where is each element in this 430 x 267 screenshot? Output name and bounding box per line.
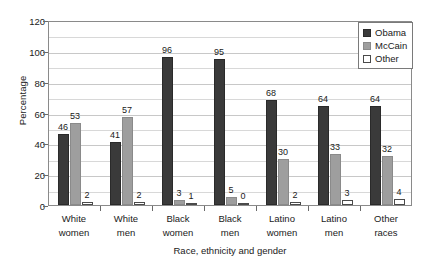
legend-item-other: Other: [363, 52, 407, 65]
x-axis-category-line: women: [59, 226, 90, 240]
bar-value-label: 57: [122, 105, 132, 115]
x-axis-category-line: Other: [374, 212, 398, 226]
x-axis-category-label: Latinowomen: [267, 212, 298, 239]
x-axis-category-line: White: [59, 212, 90, 226]
x-axis-tick-mark: [360, 206, 361, 211]
bar-value-label: 3: [344, 188, 349, 198]
legend-swatch-icon: [363, 42, 371, 50]
x-axis-category-label: Whitemen: [114, 212, 138, 239]
bar-obama: [318, 106, 329, 205]
x-axis-category-label: Whitewomen: [59, 212, 90, 239]
bar-obama: [266, 100, 277, 205]
x-axis-category-line: Latino: [267, 212, 298, 226]
y-axis-tick-label: 100: [5, 46, 45, 57]
y-axis-tick-mark: [43, 52, 48, 53]
bar-value-label: 96: [162, 45, 172, 55]
gridline: [49, 161, 411, 162]
bar-mccain: [330, 154, 341, 205]
bar-value-label: 2: [84, 190, 89, 200]
bar-value-label: 0: [240, 191, 245, 201]
bar-mccain: [382, 156, 393, 205]
chart-legend: ObamaMcCainOther: [358, 22, 413, 69]
bar-value-label: 2: [292, 190, 297, 200]
legend-label: McCain: [375, 40, 407, 51]
gridline: [49, 53, 411, 54]
bar-other: [290, 202, 301, 205]
x-axis-tick-mark: [152, 206, 153, 211]
bar-value-label: 46: [58, 122, 68, 132]
x-axis-category-line: men: [321, 226, 347, 240]
x-axis-tick-mark: [308, 206, 309, 211]
legend-label: Other: [375, 53, 399, 64]
x-axis-title: Race, ethnicity and gender: [48, 245, 412, 256]
bar-other: [186, 203, 197, 205]
x-axis-category-line: Black: [163, 212, 194, 226]
bar-obama: [214, 59, 225, 205]
y-axis-tick-label: 120: [5, 16, 45, 27]
bar-value-label: 4: [396, 187, 401, 197]
legend-item-obama: Obama: [363, 26, 407, 39]
legend-swatch-icon: [363, 29, 371, 37]
y-axis-tick-mark: [43, 144, 48, 145]
bar-mccain: [70, 123, 81, 205]
x-axis-category-line: women: [267, 226, 298, 240]
gridline: [49, 176, 411, 177]
bar-other: [134, 202, 145, 205]
y-axis-tick-label: 40: [5, 139, 45, 150]
bar-other: [238, 203, 249, 205]
bar-other: [82, 202, 93, 205]
gridline: [49, 115, 411, 116]
x-axis-category-line: men: [114, 226, 138, 240]
bar-value-label: 32: [382, 144, 392, 154]
bar-value-label: 41: [110, 130, 120, 140]
x-axis-category-line: races: [374, 226, 398, 240]
bar-value-label: 5: [228, 185, 233, 195]
bar-value-label: 30: [278, 147, 288, 157]
gridline: [49, 37, 411, 38]
gridline: [49, 68, 411, 69]
bar-mccain: [174, 200, 185, 205]
x-axis-category-label: Blackwomen: [163, 212, 194, 239]
y-axis-tick-label: 0: [5, 201, 45, 212]
y-axis-tick-label: 80: [5, 77, 45, 88]
y-axis-tick-mark: [43, 21, 48, 22]
y-axis-tick-mark: [43, 83, 48, 84]
bar-value-label: 33: [330, 142, 340, 152]
x-axis-category-line: women: [163, 226, 194, 240]
bar-mccain: [278, 159, 289, 205]
bar-value-label: 68: [266, 88, 276, 98]
gridline: [49, 84, 411, 85]
bar-value-label: 1: [188, 191, 193, 201]
bar-value-label: 3: [176, 188, 181, 198]
x-axis-tick-mark: [100, 206, 101, 211]
bar-obama: [58, 134, 69, 205]
bar-obama: [370, 106, 381, 205]
x-axis-category-line: White: [114, 212, 138, 226]
x-axis-tick-mark: [256, 206, 257, 211]
bar-value-label: 2: [136, 190, 141, 200]
gridline: [49, 130, 411, 131]
bar-mccain: [226, 197, 237, 205]
x-axis-category-label: Latinomen: [321, 212, 347, 239]
bar-mccain: [122, 117, 133, 205]
y-axis-tick-mark: [43, 175, 48, 176]
y-axis-tick-label: 60: [5, 108, 45, 119]
bar-chart: Percentage 46532415729631955068302643336…: [0, 0, 430, 267]
x-axis-category-line: Black: [218, 212, 241, 226]
bar-obama: [110, 142, 121, 205]
y-axis-tick-label: 20: [5, 170, 45, 181]
bar-value-label: 95: [214, 47, 224, 57]
x-axis-category-line: Latino: [321, 212, 347, 226]
bar-value-label: 64: [370, 94, 380, 104]
bar-value-label: 64: [318, 94, 328, 104]
x-axis-tick-mark: [204, 206, 205, 211]
bar-other: [342, 200, 353, 205]
y-axis-tick-mark: [43, 206, 48, 207]
bar-other: [394, 199, 405, 205]
x-axis-category-label: Otherraces: [374, 212, 398, 239]
x-axis-category-label: Blackmen: [218, 212, 241, 239]
gridline: [49, 99, 411, 100]
bar-value-label: 53: [70, 111, 80, 121]
y-axis-tick-mark: [43, 114, 48, 115]
legend-label: Obama: [375, 27, 406, 38]
